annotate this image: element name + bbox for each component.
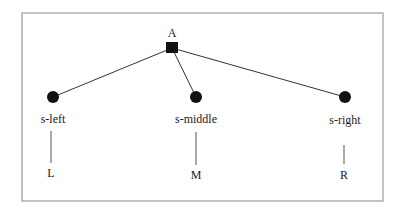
node-right-circle-icon bbox=[339, 91, 351, 103]
node-middle-label: s-middle bbox=[175, 112, 217, 126]
root-label: A bbox=[168, 26, 177, 40]
tree-diagram: A s-left L s-middle M s-right R bbox=[0, 0, 403, 213]
root-node-square-icon bbox=[166, 42, 178, 53]
diagram-frame bbox=[22, 13, 383, 201]
node-middle-circle-icon bbox=[190, 91, 202, 103]
node-right-label: s-right bbox=[329, 113, 361, 127]
leaf-right-label: R bbox=[340, 168, 348, 182]
node-left-label: s-left bbox=[41, 112, 66, 126]
leaf-middle-label: M bbox=[191, 168, 202, 182]
leaf-left-label: L bbox=[47, 166, 54, 180]
node-left-circle-icon bbox=[47, 91, 59, 103]
